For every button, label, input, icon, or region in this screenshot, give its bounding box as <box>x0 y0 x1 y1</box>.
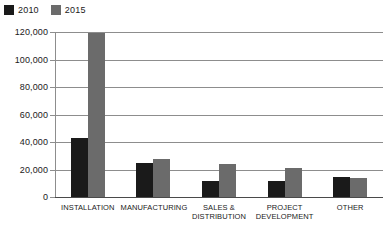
y-axis-label-100000: 100,000 <box>0 55 48 65</box>
bar-2010-1 <box>136 163 153 197</box>
y-axis-label-40000: 40,000 <box>0 137 48 147</box>
bar-group-2 <box>202 32 236 197</box>
category-label-line2: DISTRIBUTION <box>186 212 252 221</box>
bar-2015-3 <box>285 168 302 197</box>
bar-group-3 <box>268 32 302 197</box>
category-label-project: PROJECTDEVELOPMENT <box>252 203 318 221</box>
legend-label-2015: 2015 <box>65 5 86 15</box>
category-label-sales: SALES &DISTRIBUTION <box>186 203 252 221</box>
legend-swatch-2015 <box>51 5 61 15</box>
bar-2015-4 <box>350 178 367 197</box>
plot-area <box>55 32 383 197</box>
gridline-0 <box>55 197 383 198</box>
y-axis-label-120000: 120,000 <box>0 27 48 37</box>
bar-2015-2 <box>219 164 236 197</box>
bar-chart: 2010 2015 020,00040,00060,00080,000100,0… <box>0 0 383 246</box>
legend-entry-2015: 2015 <box>51 5 86 15</box>
bar-2010-0 <box>71 138 88 197</box>
y-axis-label-60000: 60,000 <box>0 110 48 120</box>
bar-2015-1 <box>153 159 170 198</box>
y-axis-label-20000: 20,000 <box>0 165 48 175</box>
bar-2010-4 <box>333 177 350 197</box>
category-label-line1: SALES & <box>186 203 252 212</box>
category-label-line2: DEVELOPMENT <box>252 212 318 221</box>
category-label-installation: INSTALLATION <box>55 203 121 212</box>
y-axis-labels: 020,00040,00060,00080,000100,000120,000 <box>0 0 48 246</box>
category-label-line1: INSTALLATION <box>55 203 121 212</box>
category-label-other: OTHER <box>317 203 383 212</box>
bar-group-0 <box>71 32 105 197</box>
y-axis-label-0: 0 <box>0 192 48 202</box>
bar-group-4 <box>333 32 367 197</box>
category-label-manufacturing: MANUFACTURING <box>121 203 187 212</box>
bar-2010-3 <box>268 181 285 198</box>
bar-group-1 <box>136 32 170 197</box>
bar-2015-0 <box>88 33 105 197</box>
y-axis-label-80000: 80,000 <box>0 82 48 92</box>
category-label-line1: PROJECT <box>252 203 318 212</box>
category-label-line1: OTHER <box>317 203 383 212</box>
bar-2010-2 <box>202 181 219 198</box>
category-label-line1: MANUFACTURING <box>121 203 187 212</box>
